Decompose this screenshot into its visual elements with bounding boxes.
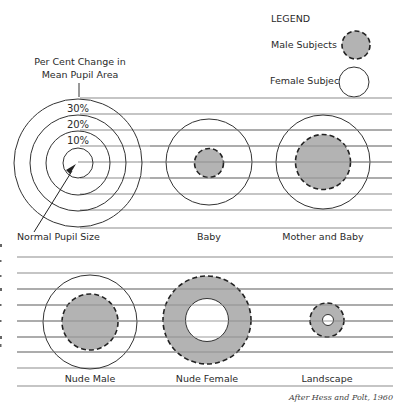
stimulus-label: Baby xyxy=(197,231,221,242)
female-pupil xyxy=(323,315,334,326)
normal-pupil-label: Normal Pupil Size xyxy=(17,231,100,242)
margin-fragments xyxy=(0,244,2,347)
scale-title-line2: Mean Pupil Area xyxy=(42,69,119,80)
legend-female-label: Female Subjects xyxy=(270,75,348,86)
legend-title: LEGEND xyxy=(271,13,310,24)
stimulus-baby: Baby xyxy=(166,119,252,242)
stimulus-label: Nude Male xyxy=(65,373,116,384)
legend: LEGEND Male Subjects Female Subjects xyxy=(270,13,370,97)
ring-label-30: 30% xyxy=(67,103,89,114)
stimulus-label: Nude Female xyxy=(176,373,239,384)
stimulus-label: Mother and Baby xyxy=(282,231,364,242)
legend-female-swatch xyxy=(339,67,369,97)
scale-title-line1: Per Cent Change in xyxy=(34,56,125,67)
ring-label-10: 10% xyxy=(67,135,89,146)
legend-male-swatch xyxy=(342,31,370,59)
male-pupil xyxy=(62,294,118,350)
ring-label-20: 20% xyxy=(67,119,89,130)
ring-normal xyxy=(63,148,93,178)
male-pupil xyxy=(195,149,224,178)
citation: After Hess and Polt, 1960 xyxy=(288,393,393,402)
pupil-size-diagram: LEGEND Male Subjects Female Subjects Per… xyxy=(0,0,406,405)
stimulus-label: Landscape xyxy=(301,373,352,384)
scale-target: Per Cent Change in Mean Pupil Area 30% 2… xyxy=(14,56,142,242)
legend-male-label: Male Subjects xyxy=(271,39,337,50)
stimulus-landscape: Landscape xyxy=(301,303,352,384)
